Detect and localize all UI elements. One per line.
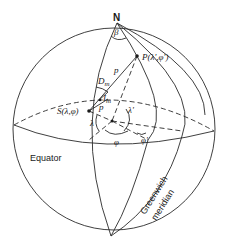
sphere-svg: N β P(λ',φ') p Dm Im S(λ,φ) p λ' λ φ φ' …	[0, 0, 226, 248]
phi-label: φ	[114, 137, 119, 147]
point-p-label: P(λ',φ')	[141, 52, 168, 62]
beta-label: β	[113, 27, 119, 37]
lambda-prime-label: λ'	[127, 105, 135, 115]
lambda-label: λ	[89, 118, 94, 128]
point-p-marker	[135, 54, 139, 58]
phi-prime-label: φ'	[141, 135, 149, 145]
radius-to-greenwich	[112, 121, 182, 131]
point-s-marker	[87, 109, 91, 113]
im-marker	[99, 99, 101, 101]
small-p-label: p	[98, 102, 104, 112]
meridian-s	[92, 23, 117, 236]
equator-label: Equator	[30, 153, 62, 163]
sphere-diagram: N β P(λ',φ') p Dm Im S(λ,φ) p λ' λ φ φ' …	[0, 0, 226, 248]
north-pole-label: N	[113, 12, 120, 23]
point-s-label: S(λ,φ)	[57, 106, 79, 116]
center-marker	[111, 120, 114, 123]
dm-label: Dm	[97, 76, 110, 88]
equator-back-arc	[14, 100, 214, 131]
arc-p-label: p	[113, 65, 119, 75]
lambda-arc	[96, 115, 99, 131]
sphere-outline	[13, 28, 215, 230]
